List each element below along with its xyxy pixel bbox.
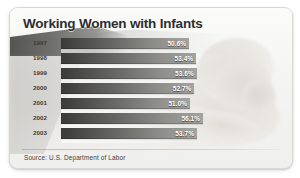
bar: 50.6% [61, 38, 189, 49]
bar: 51.0% [61, 98, 190, 109]
bar-category-label: 1998 [33, 54, 59, 61]
bar-value-label: 53.7% [175, 130, 194, 137]
screenshot-viewport: Working Women with Infants 199750.6%1998… [0, 0, 300, 178]
bar: 56.1% [61, 113, 203, 124]
chart-title: Working Women with Infants [23, 16, 203, 31]
source-label: Source: U.S. Department of Labor [24, 154, 125, 161]
bar-value-label: 53.6% [175, 70, 194, 77]
bar-value-label: 51.0% [168, 100, 187, 107]
chart-card: Working Women with Infants 199750.6%1998… [9, 7, 293, 169]
bar-track: 56.1% [61, 113, 203, 124]
bar: 53.6% [61, 68, 197, 79]
bar: 53.4% [61, 53, 196, 64]
bar-category-label: 1997 [33, 39, 59, 46]
bar-row: 199750.6% [10, 38, 292, 51]
bar-category-label: 2003 [33, 129, 59, 136]
bar-row: 200256.1% [10, 113, 292, 126]
bar-row-highlight [61, 139, 207, 143]
bar-track: 51.0% [61, 98, 190, 109]
bar-track: 50.6% [61, 38, 189, 49]
bar-row: 199853.4% [10, 53, 292, 66]
bar-category-label: 1999 [33, 69, 59, 76]
bar: 52.7% [61, 83, 194, 94]
bar-value-label: 52.7% [173, 85, 192, 92]
bar-track: 53.7% [61, 128, 197, 139]
bar-category-label: 2000 [33, 84, 59, 91]
bar-chart-plot: 199750.6%199853.4%199953.6%200052.7%2001… [10, 37, 292, 147]
bar-row: 199953.6% [10, 68, 292, 81]
bar-track: 52.7% [61, 83, 194, 94]
bar-category-label: 2001 [33, 99, 59, 106]
bar-value-label: 50.6% [167, 40, 186, 47]
bar-track: 53.4% [61, 53, 196, 64]
bar-row: 200353.7% [10, 128, 292, 141]
footer-divider [22, 149, 280, 150]
bar: 53.7% [61, 128, 197, 139]
bar-row: 200052.7% [10, 83, 292, 96]
bar-category-label: 2002 [33, 114, 59, 121]
bar-row: 200151.0% [10, 98, 292, 111]
bar-value-label: 56.1% [181, 115, 200, 122]
bar-value-label: 53.4% [175, 55, 194, 62]
bar-track: 53.6% [61, 68, 197, 79]
